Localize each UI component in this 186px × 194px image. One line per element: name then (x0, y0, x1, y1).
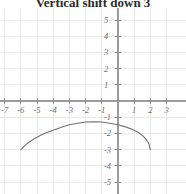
coordinate-graph: -7-6-5-4-3-2-1123 54321-1-2-3-4-5 (0, 8, 186, 194)
x-tick-label: -6 (17, 105, 25, 115)
y-tick-label: -1 (104, 112, 111, 122)
y-tick-label: 3 (103, 47, 108, 57)
x-tick-label: -2 (82, 105, 90, 115)
x-tick-label: 3 (163, 105, 168, 115)
x-axis-tick-labels: -7-6-5-4-3-2-1123 (1, 105, 169, 115)
y-tick-label: -3 (104, 145, 111, 155)
x-tick-label: -5 (33, 105, 40, 115)
x-tick-label: 2 (148, 105, 153, 115)
x-tick-label: -4 (50, 105, 58, 115)
x-tick-label: 1 (132, 105, 136, 115)
y-tick-label: 5 (104, 15, 108, 25)
x-tick-label: -3 (66, 105, 73, 115)
y-tick-label: 1 (104, 80, 108, 90)
chart-page: Vertical shift down 3 -7-6-5-4-3-2-1123 … (0, 0, 186, 194)
y-tick-label: -4 (104, 161, 112, 171)
y-tick-label: -5 (104, 177, 111, 187)
y-tick-label: -2 (104, 128, 112, 138)
plot-area: -7-6-5-4-3-2-1123 54321-1-2-3-4-5 (0, 8, 186, 194)
x-tick-label: -7 (1, 105, 9, 115)
